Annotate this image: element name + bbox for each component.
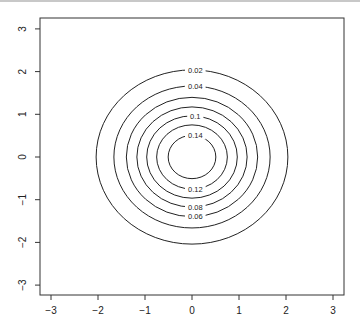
- contour-label: 0.1: [190, 112, 200, 121]
- contour-label: 0.06: [188, 212, 203, 221]
- x-tick-label: −1: [139, 305, 151, 316]
- y-tick-label: −2: [17, 236, 28, 248]
- x-tick-label: 1: [236, 305, 242, 316]
- y-tick-label: 2: [17, 68, 28, 74]
- x-tick-label: 3: [330, 305, 336, 316]
- contour-plot: 0.020.040.10.140.120.080.06 −3−2−10123 −…: [0, 0, 360, 330]
- contour-label: 0.02: [188, 66, 203, 75]
- x-tick-label: −2: [92, 305, 104, 316]
- y-tick-label: 1: [17, 111, 28, 117]
- y-axis: −3−2−10123: [17, 26, 40, 291]
- contour-level-0.14: [168, 135, 216, 178]
- contour-label: 0.12: [188, 185, 203, 194]
- y-tick-label: −3: [17, 279, 28, 291]
- plot-frame: [40, 18, 344, 295]
- x-tick-label: −3: [45, 305, 57, 316]
- y-tick-label: −1: [17, 194, 28, 206]
- x-tick-label: 0: [189, 305, 195, 316]
- contour-label: 0.14: [188, 131, 203, 140]
- x-axis: −3−2−10123: [45, 295, 336, 316]
- y-tick-label: 0: [17, 154, 28, 160]
- y-tick-label: 3: [17, 26, 28, 32]
- x-tick-label: 2: [283, 305, 289, 316]
- contour-label: 0.04: [188, 82, 203, 91]
- contour-label: 0.08: [188, 203, 203, 212]
